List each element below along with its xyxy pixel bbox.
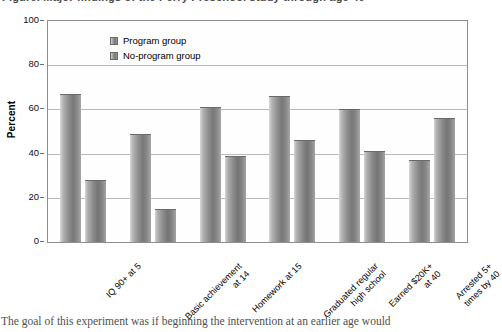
y-axis-tick-mark [40,153,44,154]
y-axis-tick-label: 40 [28,148,39,158]
bar [294,140,315,242]
bar [269,96,290,242]
x-axis-tick-label: Homework at 15 [250,261,304,315]
bar [225,156,246,242]
gridline [48,198,467,199]
y-axis-tick-label: 20 [28,192,39,202]
legend-swatch-no-program-icon [110,52,118,60]
x-axis-tick-label: Earned $20K+at 40 [387,261,443,317]
y-axis-tick-label: 60 [28,103,39,113]
y-axis-tick-label: 100 [23,15,39,25]
gridline [48,109,467,110]
x-axis-labels: IQ 90+ at 5Basic achievementat 14Homewor… [0,259,488,317]
cutoff-body-text-line: The goal of this experiment was if begin… [1,316,391,327]
bar [85,180,106,242]
cutoff-figure-title: Figure. Major findings of the Perry Pres… [0,0,488,9]
x-axis-tick-label-line: Basic achievement [183,261,243,321]
y-axis-tick-mark [40,20,44,21]
y-axis-tick-mark [40,64,44,65]
y-axis-tick-mark [40,108,44,109]
gridline [48,154,467,155]
x-axis-tick-label-line: Homework at 15 [250,261,303,314]
bar [339,109,360,242]
y-axis-tick-label: 0 [34,236,39,246]
legend-item: No-program group [110,49,201,62]
bar [130,134,151,242]
y-axis: Percent 020406080100 [0,9,44,259]
bar [434,118,455,242]
y-axis-tick-label: 80 [28,59,39,69]
x-axis-tick-label: IQ 90+ at 5 [104,261,143,300]
bar [364,151,385,242]
gridline [48,65,467,66]
y-axis-title: Percent [6,90,17,150]
bar [409,160,430,242]
cutoff-figure-title-text: Figure. Major findings of the Perry Pres… [2,0,365,3]
bar [200,107,221,242]
bar [60,94,81,242]
cutoff-body-text: The goal of this experiment was if begin… [0,316,488,332]
y-axis-tick-mark [40,241,44,242]
plot-area: Program group No-program group [47,20,468,243]
legend-swatch-program-icon [110,37,118,45]
legend-label-program: Program group [123,35,186,46]
chart-legend: Program group No-program group [110,34,201,64]
y-axis-tick-mark [40,197,44,198]
x-axis-tick-label: Arrested 5+times by 40 [454,261,502,309]
bar-chart: Percent 020406080100 Program group No-pr… [0,9,488,259]
legend-item: Program group [110,34,201,47]
bar [155,209,176,242]
x-axis-tick-label-line: IQ 90+ at 5 [104,261,143,300]
legend-label-no-program: No-program group [123,50,201,61]
